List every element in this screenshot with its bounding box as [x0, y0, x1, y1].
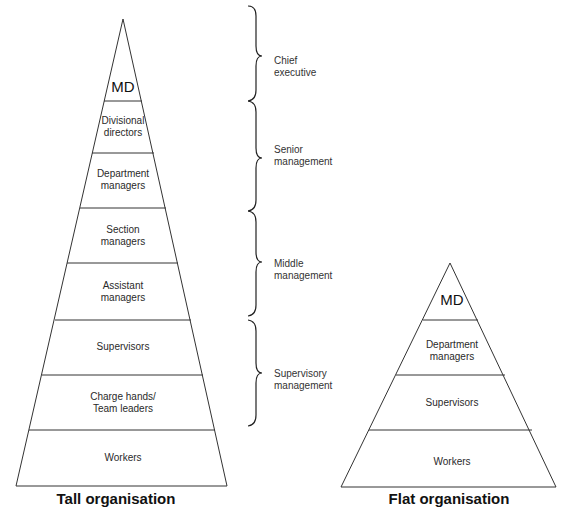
label-line: management — [274, 156, 332, 167]
tall-level-charge-hands: Charge hands/Team leaders — [90, 391, 156, 415]
label-line: Department — [426, 339, 478, 350]
flat-level-workers: Workers — [433, 456, 470, 468]
tall-level-section-managers: Sectionmanagers — [101, 224, 145, 248]
label-line: managers — [101, 180, 145, 191]
tall-title: Tall organisation — [57, 490, 176, 507]
label-line: Supervisory — [274, 368, 327, 379]
flat-level-department-managers: Departmentmanagers — [426, 339, 478, 363]
brace-middle-management: Middlemanagement — [274, 258, 332, 282]
label-line: Section — [106, 224, 139, 235]
braces — [248, 6, 262, 426]
label-line: directors — [104, 127, 142, 138]
tall-level-supervisors: Supervisors — [97, 341, 150, 353]
tall-level-assistant-managers: Assistantmanagers — [101, 280, 145, 304]
label-line: managers — [101, 236, 145, 247]
flat-title: Flat organisation — [389, 490, 510, 507]
label-line: managers — [101, 292, 145, 303]
label-line: Assistant — [103, 280, 144, 291]
tall-level-divisional-directors: Divisionaldirectors — [102, 115, 145, 139]
flat-level-supervisors: Supervisors — [426, 397, 479, 409]
label-line: Divisional — [102, 115, 145, 126]
label-line: executive — [274, 67, 316, 78]
label-line: managers — [430, 351, 474, 362]
brace-senior-management: Seniormanagement — [274, 144, 332, 168]
label-line: Chief — [274, 55, 297, 66]
label-line: Senior — [274, 144, 303, 155]
brace-chief-executive: Chiefexecutive — [274, 55, 316, 79]
flat-level-md: MD — [440, 292, 463, 308]
tall-level-workers: Workers — [104, 452, 141, 464]
label-line: Department — [97, 168, 149, 179]
label-line: management — [274, 380, 332, 391]
label-line: management — [274, 270, 332, 281]
label-line: Charge hands/ — [90, 391, 156, 402]
brace-supervisory-management: Supervisorymanagement — [274, 368, 332, 392]
tall-level-department-managers: Departmentmanagers — [97, 168, 149, 192]
label-line: Team leaders — [93, 403, 153, 414]
label-line: Middle — [274, 258, 303, 269]
tall-level-md: MD — [111, 79, 134, 95]
